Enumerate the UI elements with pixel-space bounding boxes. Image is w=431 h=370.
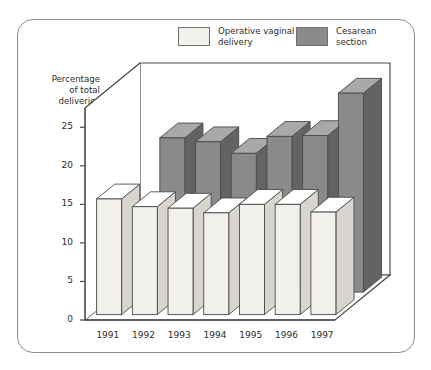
x-tick-label-1997: 1997 [305,330,339,340]
y-tick-label-25: 25 [47,121,73,131]
light-swatch-icon [178,27,210,46]
x-tick-label-1996: 1996 [269,330,303,340]
dark-swatch-icon [296,27,328,46]
chart-legend: Operative vaginal delivery Cesarean sect… [178,26,393,58]
y-axis-title: Percentage of total deliveries [22,74,100,107]
x-tick-label-1995: 1995 [234,330,268,340]
chart-screenshot: Operative vaginal delivery Cesarean sect… [0,0,431,370]
legend-item-operative-vaginal-delivery[interactable]: Operative vaginal delivery [178,26,294,47]
x-tick-label-1994: 1994 [198,330,232,340]
legend-label-cesarean-section: Cesarean section [336,26,376,47]
chart-frame [17,19,415,353]
x-tick-label-1992: 1992 [127,330,161,340]
x-tick-label-1993: 1993 [162,330,196,340]
y-tick-label-5: 5 [47,275,73,285]
legend-label-operative-vaginal-delivery: Operative vaginal delivery [218,26,294,47]
y-tick-label-0: 0 [47,314,73,324]
y-tick-label-10: 10 [47,237,73,247]
legend-item-cesarean-section[interactable]: Cesarean section [296,26,376,47]
y-tick-label-15: 15 [47,198,73,208]
x-tick-label-1991: 1991 [91,330,125,340]
y-tick-label-20: 20 [47,160,73,170]
